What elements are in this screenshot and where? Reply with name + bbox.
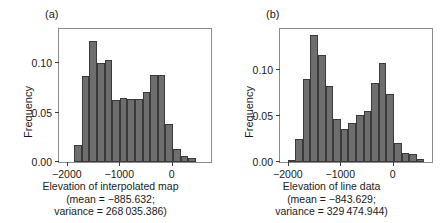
y-axis-tick bbox=[55, 161, 59, 162]
histogram-bar bbox=[348, 123, 356, 162]
x-axis-tick bbox=[172, 162, 173, 166]
x-axis-tick bbox=[340, 162, 341, 166]
histogram-bar bbox=[409, 154, 417, 162]
histogram-bar bbox=[295, 139, 303, 162]
panel-b-caption-line-2: (mean = −843.629; bbox=[221, 193, 442, 206]
histogram-bar bbox=[417, 159, 425, 162]
histogram-bar bbox=[386, 94, 394, 162]
x-axis-tick bbox=[119, 162, 120, 166]
histogram-bar bbox=[326, 86, 334, 162]
histogram-bar bbox=[150, 75, 158, 162]
histogram-figure: (a) Frequency 0.000.050.10 −2000−10000 E… bbox=[0, 0, 443, 223]
histogram-bar bbox=[310, 35, 318, 162]
histogram-bar bbox=[188, 158, 196, 162]
x-axis-tick-label: 0 bbox=[390, 168, 396, 180]
histogram-bar bbox=[97, 63, 105, 162]
panel-a-plot-area: 0.000.050.10 −2000−10000 bbox=[59, 29, 211, 162]
histogram-bar bbox=[318, 55, 326, 162]
y-axis-tick bbox=[55, 112, 59, 113]
histogram-bar bbox=[402, 153, 410, 162]
panel-b-plot-frame: 0.000.050.10 −2000−10000 bbox=[279, 28, 433, 163]
panel-b-caption: Elevation of line data (mean = −843.629;… bbox=[221, 180, 442, 218]
panel-b: (b) Frequency 0.000.050.10 −2000−10000 E… bbox=[221, 0, 442, 223]
histogram-bar bbox=[135, 99, 143, 162]
panel-b-plot-area: 0.000.050.10 −2000−10000 bbox=[280, 29, 432, 162]
histogram-bar bbox=[341, 129, 349, 162]
histogram-bar bbox=[89, 41, 97, 162]
panel-b-label: (b) bbox=[266, 8, 279, 20]
histogram-bar bbox=[105, 60, 113, 162]
histogram-bar bbox=[173, 149, 181, 162]
histogram-bar bbox=[364, 111, 372, 162]
histogram-bar bbox=[158, 75, 166, 162]
histogram-bar bbox=[74, 145, 82, 162]
histogram-bar bbox=[356, 115, 364, 162]
y-axis-tick-label: 0.10 bbox=[253, 64, 273, 76]
x-axis-tick bbox=[393, 162, 394, 166]
x-axis-tick-label: 0 bbox=[169, 168, 175, 180]
histogram-bar bbox=[303, 79, 311, 162]
x-axis-tick-label: −1000 bbox=[105, 168, 135, 180]
histogram-bar bbox=[127, 99, 135, 162]
y-axis-tick bbox=[276, 69, 280, 70]
y-axis-tick bbox=[276, 161, 280, 162]
panel-a-plot-frame: 0.000.050.10 −2000−10000 bbox=[58, 28, 212, 163]
histogram-bar bbox=[165, 124, 173, 162]
histogram-bar bbox=[333, 119, 341, 162]
x-axis-tick-label: −1000 bbox=[326, 168, 356, 180]
histogram-bar bbox=[379, 63, 387, 162]
panel-b-caption-line-1: Elevation of line data bbox=[221, 180, 442, 193]
panel-a-bars bbox=[59, 29, 211, 162]
panel-b-bars bbox=[280, 29, 432, 162]
y-axis-tick-label: 0.10 bbox=[32, 57, 52, 69]
panel-a-caption-line-2: (mean = −885.632; bbox=[0, 193, 221, 206]
histogram-bar bbox=[82, 76, 90, 162]
histogram-bar bbox=[394, 143, 402, 162]
histogram-bar bbox=[120, 98, 128, 162]
y-axis-tick-label: 0.00 bbox=[32, 156, 52, 168]
x-axis-tick bbox=[67, 162, 68, 166]
y-axis-tick bbox=[276, 115, 280, 116]
y-axis-tick-label: 0.00 bbox=[253, 156, 273, 168]
histogram-bar bbox=[371, 83, 379, 162]
x-axis-tick-label: −2000 bbox=[273, 168, 303, 180]
y-axis-tick bbox=[55, 62, 59, 63]
panel-a-caption-line-3: variance = 268 035.386) bbox=[0, 205, 221, 218]
y-axis-tick-label: 0.05 bbox=[32, 107, 52, 119]
x-axis-tick bbox=[288, 162, 289, 166]
panel-a-label: (a) bbox=[45, 8, 58, 20]
histogram-bar bbox=[112, 100, 120, 162]
panel-a-caption: Elevation of interpolated map (mean = −8… bbox=[0, 180, 221, 218]
panel-a: (a) Frequency 0.000.050.10 −2000−10000 E… bbox=[0, 0, 221, 223]
histogram-bar bbox=[143, 92, 151, 162]
panel-b-caption-line-3: variance = 329 474.944) bbox=[221, 205, 442, 218]
panel-a-caption-line-1: Elevation of interpolated map bbox=[0, 180, 221, 193]
histogram-bar bbox=[181, 156, 189, 162]
y-axis-tick-label: 0.05 bbox=[253, 110, 273, 122]
x-axis-tick-label: −2000 bbox=[52, 168, 82, 180]
